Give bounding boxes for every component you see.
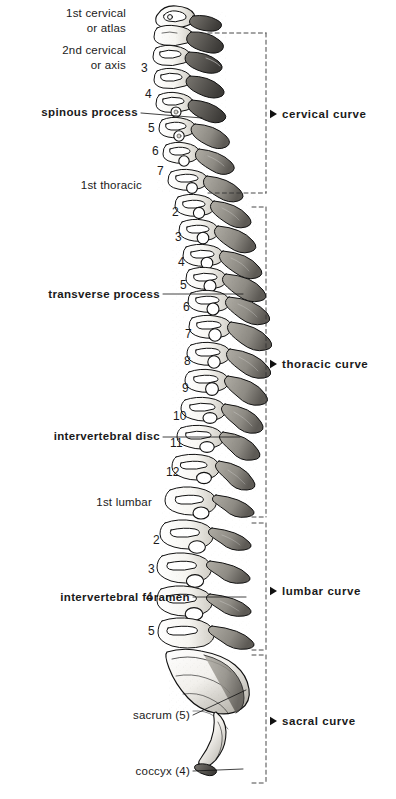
label-axis: 2nd cervical or axis [13, 43, 126, 73]
vertebra-number-c6: 6 [152, 145, 159, 159]
vertebra-number-c7: 7 [157, 165, 164, 179]
vertebra-number-t9: 9 [182, 382, 189, 396]
curve-label-sacral: sacral curve [282, 715, 356, 729]
curve-bracket-sacral [252, 655, 266, 783]
label-first-lumbar: 1st lumbar [48, 496, 152, 510]
curve-arrow-lumbar [270, 587, 277, 595]
vertebra-number-t6: 6 [183, 301, 190, 315]
coccyx [188, 712, 226, 776]
vertebra-number-l5: 5 [148, 625, 155, 639]
vertebra-number-c4: 4 [145, 88, 152, 102]
vertebra-number-l3: 3 [148, 563, 155, 577]
vertebra-number-t7: 7 [185, 328, 192, 342]
vertebra-number-t11: 11 [170, 437, 183, 451]
vertebra-number-t8: 8 [184, 355, 191, 369]
vertebra-number-t2: 2 [172, 206, 179, 220]
vertebra-number-l4: 4 [146, 591, 153, 605]
curve-arrow-cervical [270, 110, 277, 118]
label-sacrum: sacrum (5) [85, 709, 190, 723]
label-transverse-process: transverse process [8, 288, 160, 302]
label-spinous-process: spinous process [8, 106, 138, 120]
label-first-thoracic: 1st thoracic [40, 179, 142, 193]
vertebral-column-figure: 1st cervical or atlas2nd cervical or axi… [0, 0, 396, 799]
label-coccyx: coccyx (4) [85, 765, 190, 779]
vertebra-number-t5: 5 [180, 279, 187, 293]
curve-label-lumbar: lumbar curve [282, 585, 361, 599]
vertebra-number-t12: 12 [166, 466, 180, 480]
curve-label-thoracic: thoracic curve [282, 358, 368, 372]
clipped-caption-sliver [0, 789, 396, 799]
curve-label-cervical: cervical curve [282, 108, 366, 122]
label-atlas: 1st cervical or atlas [13, 6, 126, 36]
label-intervertebral-disc: intervertebral disc [8, 430, 160, 444]
vertebra-number-t4: 4 [178, 256, 185, 270]
curve-arrow-thoracic [270, 360, 277, 368]
vertebra-number-t3: 3 [175, 231, 182, 245]
vertebra-number-c5: 5 [148, 122, 155, 136]
curve-bracket-lumbar [252, 523, 266, 650]
label-intervertebral-foramen: intervertebral foramen [4, 591, 190, 605]
vertebra-number-l2: 2 [153, 534, 160, 548]
curve-arrow-sacral [270, 717, 277, 725]
vertebra-number-t10: 10 [173, 410, 187, 424]
vertebra-number-c3: 3 [141, 62, 148, 76]
